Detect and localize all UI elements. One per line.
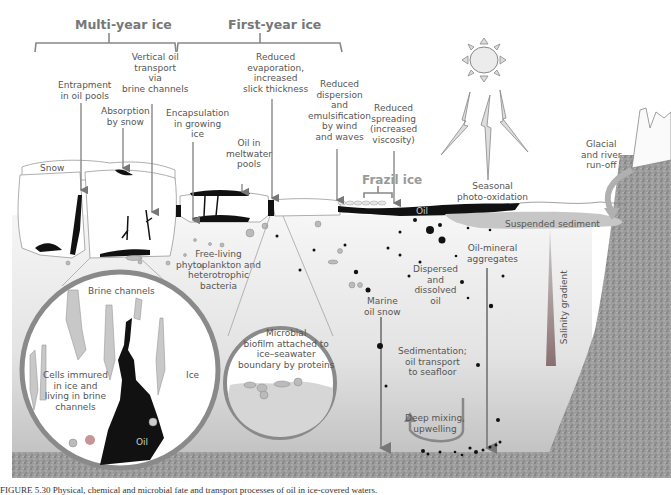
label-meltwater-pools: Oil inmeltwaterpools	[226, 138, 272, 170]
label-inset-oil: Oil	[136, 437, 148, 447]
label-encapsulation: Encapsulationin growingice	[166, 108, 229, 140]
label-suspended-sediment: Suspended sediment	[505, 219, 600, 230]
label-microbial-biofilm: Microbialbiofilm attached to ice–seawate…	[238, 328, 334, 370]
label-absorption: Absorptionby snow	[101, 106, 150, 127]
figure-caption: FIGURE 5.30 Physical, chemical and micro…	[0, 485, 377, 495]
label-oil-mineral-aggregates: Oil-mineralaggregates	[467, 243, 518, 264]
sun-icon	[441, 38, 528, 180]
header-multi-year-ice: Multi-year ice	[75, 17, 172, 32]
label-reduced-evaporation: Reducedevaporation, increasedslick thick…	[243, 52, 308, 94]
label-entrapment: Entrapmentin oil pools	[58, 80, 111, 101]
label-sedimentation: Sedimentation;oil transportto seafloor	[398, 346, 467, 378]
label-salinity-gradient: Salinity gradient	[559, 267, 570, 347]
first-year-ice-block-2	[272, 199, 340, 216]
label-free-living: Free-livingphytoplankton and heterotroph…	[176, 249, 261, 291]
label-surface-oil: Oil	[416, 206, 428, 216]
label-reduced-dispersion: Reduceddispersion andemulsification by w…	[308, 79, 371, 142]
lightning-bolt-icons	[441, 90, 528, 180]
multi-year-ice-block-2	[85, 170, 176, 258]
label-dispersed-dissolved: Dispersedand dissolvedoil	[413, 264, 458, 306]
label-marine-oil-snow: Marineoil snow	[364, 296, 401, 317]
label-brine-channels: Brine channels	[88, 286, 155, 297]
label-vertical-transport: Vertical oiltransport viabrine channels	[122, 52, 188, 94]
label-photo-oxidation: Seasonalphoto-oxidation	[457, 181, 528, 202]
label-reduced-spreading: Reducedspreading (increasedviscosity)	[370, 103, 417, 145]
label-snow: Snow	[40, 163, 64, 174]
label-cells-immured: Cells immuredin ice and living in brinec…	[43, 370, 108, 412]
label-frazil-ice: Frazil ice	[362, 173, 422, 187]
glacier	[632, 108, 671, 168]
label-ice: Ice	[186, 370, 199, 381]
label-deep-mixing: Deep mixing,upwelling	[405, 413, 465, 434]
frazil-crystals	[338, 201, 386, 205]
header-first-year-ice: First-year ice	[228, 17, 321, 32]
label-glacial-runoff: Glacialand riverrun-off	[581, 139, 622, 171]
